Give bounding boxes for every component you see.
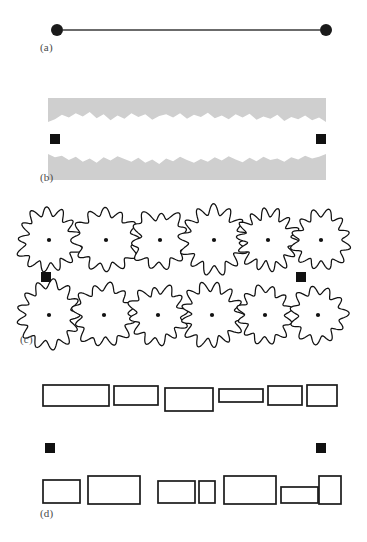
blob-center-dot: [212, 238, 216, 242]
blob-center-dot: [266, 238, 270, 242]
blob-center-dot: [316, 313, 320, 317]
blob-center-dot: [156, 313, 160, 317]
panel-d: (d): [0, 360, 367, 542]
panel-c-graphic: [0, 196, 367, 356]
endpoint-marker-right: [296, 272, 306, 282]
panel-b: (b): [0, 88, 367, 190]
rough-band-upper: [48, 98, 326, 122]
rectangle-shape: [43, 385, 109, 406]
blob-center-dot: [263, 313, 267, 317]
rectangle-shape: [43, 480, 80, 503]
panel-label-b: (b): [40, 172, 53, 183]
rectangle-shape: [307, 385, 337, 406]
endpoint-marker-right: [316, 134, 326, 144]
rectangle-shape: [165, 388, 213, 411]
endpoint-marker-left: [45, 443, 55, 453]
blob-center-dot: [47, 238, 51, 242]
endpoint-marker-right: [316, 443, 326, 453]
figure-root: (a) (b) (c): [0, 0, 367, 542]
blob-center-dot: [210, 313, 214, 317]
rectangle-shape: [88, 476, 140, 504]
panel-label-c: (c): [20, 334, 33, 345]
endpoint-marker-right: [320, 24, 332, 36]
panel-b-graphic: [0, 88, 367, 190]
rectangle-group: [43, 385, 341, 504]
rectangle-shape: [219, 389, 263, 402]
rectangle-shape: [114, 386, 158, 405]
blob-center-dot: [158, 238, 162, 242]
rectangle-shape: [158, 481, 195, 503]
blob-center-dot: [47, 313, 51, 317]
blob-center-dot: [319, 238, 323, 242]
rectangle-shape: [268, 386, 302, 405]
panel-a: (a): [0, 0, 367, 70]
panel-c: (c): [0, 196, 367, 356]
panel-label-d: (d): [40, 508, 53, 519]
rough-band-lower: [48, 154, 326, 180]
rectangle-shape: [199, 481, 215, 503]
blob-center-dot: [104, 238, 108, 242]
endpoint-marker-left: [50, 134, 60, 144]
rectangle-shape: [319, 476, 341, 504]
endpoint-marker-left: [51, 24, 63, 36]
rectangle-shape: [281, 487, 318, 503]
panel-d-graphic: [0, 360, 367, 542]
endpoint-marker-left: [41, 272, 51, 282]
panel-label-a: (a): [40, 42, 53, 53]
blob-center-dot: [102, 313, 106, 317]
rectangle-shape: [224, 476, 276, 504]
panel-a-graphic: [0, 0, 367, 70]
